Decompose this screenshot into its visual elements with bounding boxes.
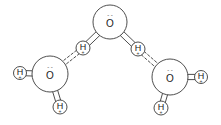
partial-negative-charge: - - [47, 64, 53, 70]
partial-negative-charge: - - [107, 12, 113, 18]
hydrogen-atom: H+ [131, 42, 145, 56]
hydrogen-atom: H+ [53, 100, 67, 114]
hydrogen-atom: H+ [76, 41, 90, 55]
partial-positive-charge: + [82, 49, 85, 55]
hydrogen-atom: H+ [154, 101, 168, 115]
partial-positive-charge: + [59, 108, 62, 114]
atom-label: O [106, 18, 114, 29]
water-hydrogen-bond-diagram: O- -O- -O- -H+H+H+H+H+H+ [0, 0, 221, 125]
oxygen-atom: O- - [152, 59, 188, 95]
partial-positive-charge: + [19, 74, 22, 80]
partial-positive-charge: + [200, 78, 203, 84]
oxygen-atom: O- - [93, 5, 127, 39]
hydrogen-atom: H+ [195, 71, 208, 84]
atom-label: O [166, 73, 174, 84]
atom-label: O [46, 70, 54, 81]
partial-positive-charge: + [137, 50, 140, 56]
oxygen-atom: O- - [32, 56, 68, 92]
partial-negative-charge: - - [167, 67, 173, 73]
partial-positive-charge: + [160, 109, 163, 115]
atoms-layer: O- -O- -O- -H+H+H+H+H+H+ [14, 5, 208, 115]
hydrogen-atom: H+ [14, 67, 27, 80]
